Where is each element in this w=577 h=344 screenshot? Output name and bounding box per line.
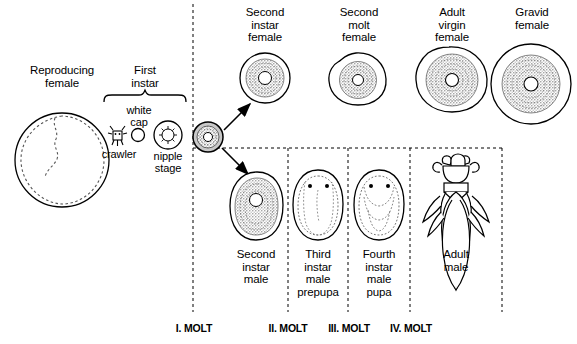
fourth-instar-male-pupa-figure xyxy=(354,170,404,240)
third-instar-male-prepupa-figure xyxy=(293,170,343,240)
label-first-instar: First instar xyxy=(116,64,174,89)
life-cycle-diagram: Reproducing female First instar white ca… xyxy=(0,0,577,344)
label-fourth-instar-male-pupa: Fourth instar male pupa xyxy=(343,248,415,298)
adult-virgin-female-figure xyxy=(416,47,487,112)
second-molt-female-figure xyxy=(329,53,386,105)
white-cap-figure xyxy=(132,129,145,142)
label-white-cap: white cap xyxy=(113,104,165,128)
molt-label-4: IV. MOLT xyxy=(379,322,443,334)
molt-label-3: III. MOLT xyxy=(317,322,381,334)
arrow-to-male-path xyxy=(222,148,248,174)
label-second-molt-female: Second molt female xyxy=(322,6,396,44)
label-crawler: crawler xyxy=(94,148,144,160)
gravid-female-figure xyxy=(491,44,571,124)
settled-first-instar-figure xyxy=(193,122,223,152)
second-instar-female-figure xyxy=(240,53,290,103)
label-second-instar-female: Second instar female xyxy=(228,6,302,44)
label-nipple-stage: nipple stage xyxy=(142,150,194,174)
arrow-to-female-path xyxy=(224,104,250,130)
first-instar-brace xyxy=(104,90,186,102)
crawler-figure xyxy=(108,126,127,146)
label-adult-male: Adult male xyxy=(421,248,491,273)
molt-label-2: II. MOLT xyxy=(256,322,320,334)
molt-label-1: I. MOLT xyxy=(163,322,225,334)
branch-arrows xyxy=(222,104,250,174)
label-adult-virgin-female: Adult virgin female xyxy=(416,6,488,44)
label-reproducing-female: Reproducing female xyxy=(14,64,110,89)
label-gravid-female: Gravid female xyxy=(496,6,568,31)
second-instar-male-figure xyxy=(230,172,283,240)
